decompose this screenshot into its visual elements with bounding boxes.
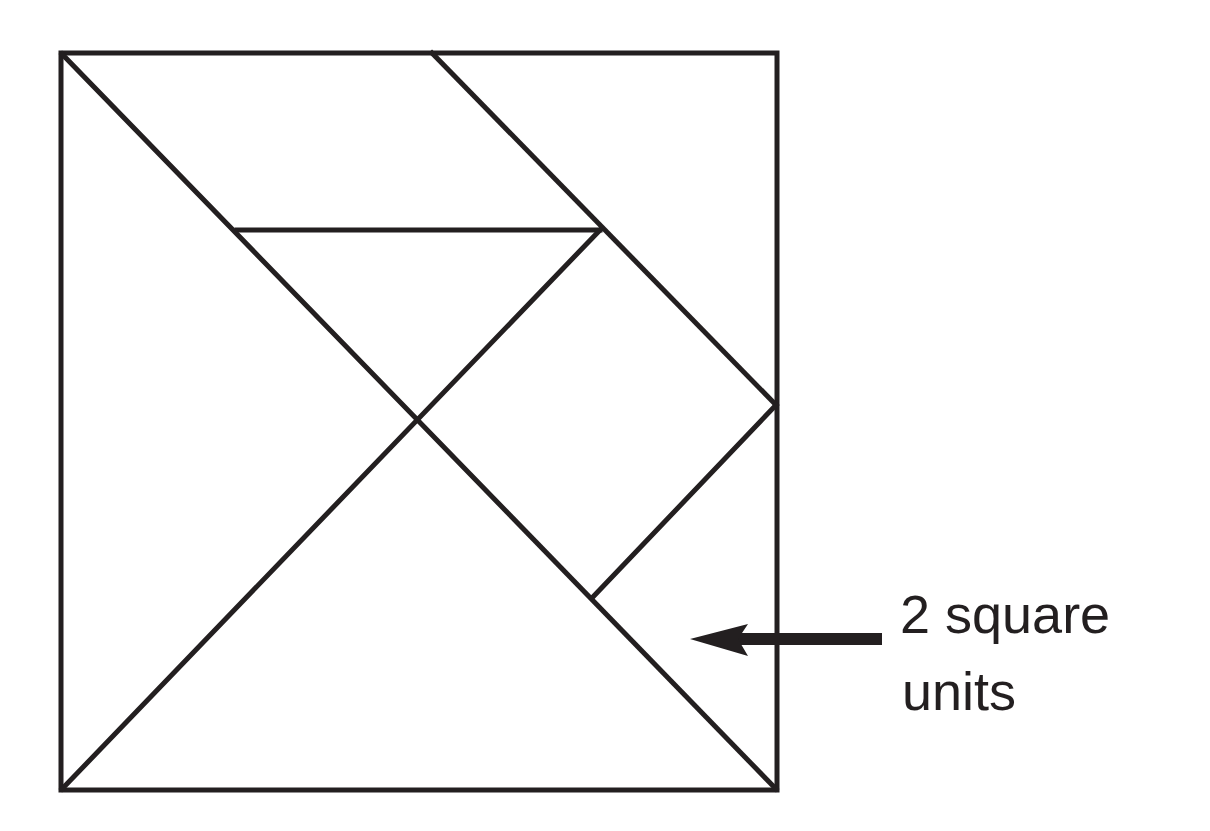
area-label-line2: units xyxy=(902,660,1016,722)
arrow-icon xyxy=(690,624,882,656)
diagonal-anti-lower xyxy=(62,230,600,789)
tangram-diagram xyxy=(0,0,1210,831)
small-square-edge-line xyxy=(592,405,776,598)
area-label-line1: 2 square xyxy=(900,583,1110,645)
